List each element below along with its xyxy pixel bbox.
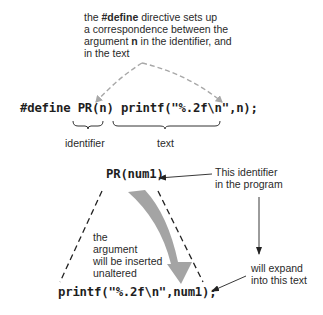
arrow-to-expansion [212, 276, 246, 291]
diagram-graphics [0, 0, 323, 315]
insertion-arrow [128, 190, 192, 284]
arrow-to-call [159, 174, 212, 178]
correspondence-arrows [96, 63, 222, 102]
identifier-brace [73, 121, 103, 129]
text-brace [113, 121, 220, 129]
dashed-arrow-to-text [142, 63, 222, 102]
dashed-line-left [60, 191, 102, 282]
diagram: the #define directive sets up a correspo… [0, 0, 323, 315]
dashed-arrow-to-identifier [96, 63, 142, 102]
